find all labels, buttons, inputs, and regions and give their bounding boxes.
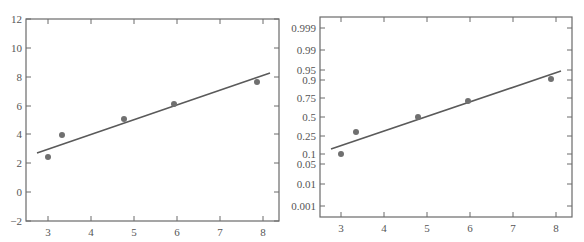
- y-tick-label: −2: [10, 215, 22, 227]
- x-tick-label: 6: [174, 226, 180, 238]
- y-tick-label: 0: [17, 186, 23, 198]
- x-tick-label: 5: [131, 226, 137, 238]
- y-tick-label: 2: [17, 157, 23, 169]
- data-point: [121, 116, 127, 122]
- charts-canvas: 345678 121086420−2 345678 0.9990.990.950…: [0, 0, 584, 242]
- y-tick-label: 10: [11, 42, 23, 54]
- data-point: [45, 154, 51, 160]
- y-tick-label: 8: [17, 71, 23, 83]
- data-point: [338, 151, 344, 157]
- right-data-points: [338, 76, 554, 157]
- y-tick-label: 0.99: [297, 44, 317, 56]
- left-data-points: [45, 79, 260, 160]
- x-tick-label: 7: [510, 222, 516, 234]
- x-tick-label: 6: [467, 222, 473, 234]
- y-tick-label: 0.5: [302, 111, 316, 123]
- x-tick-label: 4: [88, 226, 94, 238]
- right-fit-line: [331, 71, 561, 149]
- y-tick-label: 0.999: [291, 22, 316, 34]
- left-chart: 345678 121086420−2: [10, 13, 279, 238]
- y-tick-label: 0.75: [297, 92, 317, 104]
- left-y-axis: 121086420−2: [10, 13, 279, 227]
- x-tick-label: 8: [260, 226, 266, 238]
- y-tick-label: 6: [17, 100, 23, 112]
- right-x-axis: 345678: [338, 17, 559, 234]
- data-point: [59, 132, 65, 138]
- x-tick-label: 3: [338, 222, 344, 234]
- x-tick-label: 5: [424, 222, 430, 234]
- x-tick-label: 7: [217, 226, 223, 238]
- y-tick-label: 0.25: [297, 130, 317, 142]
- data-point: [415, 114, 421, 120]
- y-tick-label: 0.9: [302, 74, 316, 86]
- data-point: [254, 79, 260, 85]
- x-tick-label: 8: [553, 222, 559, 234]
- data-point: [548, 76, 554, 82]
- right-plot-frame: [320, 17, 572, 217]
- x-tick-label: 4: [381, 222, 387, 234]
- right-y-axis: 0.9990.990.950.90.750.50.250.10.050.010.…: [291, 22, 572, 212]
- y-tick-label: 0.05: [297, 158, 317, 170]
- y-tick-label: 0.01: [297, 178, 316, 190]
- left-fit-line: [37, 73, 270, 153]
- right-chart: 345678 0.9990.990.950.90.750.50.250.10.0…: [291, 17, 572, 234]
- y-tick-label: 4: [17, 128, 23, 140]
- x-tick-label: 3: [45, 226, 51, 238]
- left-plot-frame: [26, 19, 279, 221]
- y-tick-label: 12: [11, 13, 22, 25]
- data-point: [353, 129, 359, 135]
- y-tick-label: 0.001: [291, 200, 316, 212]
- data-point: [171, 101, 177, 107]
- data-point: [465, 98, 471, 104]
- left-x-axis: 345678: [45, 19, 266, 238]
